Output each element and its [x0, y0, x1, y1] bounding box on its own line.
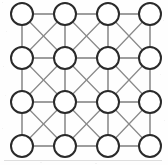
- graph-node: [97, 135, 119, 157]
- graph-node: [97, 47, 119, 69]
- graph-node: [11, 135, 33, 157]
- baseline-smudge: [4, 160, 162, 161]
- graph-node: [54, 91, 76, 113]
- grid-graph-canvas: [0, 0, 168, 165]
- graph-node: [54, 135, 76, 157]
- graph-node: [54, 3, 76, 25]
- graph-node: [139, 3, 161, 25]
- graph-node: [139, 47, 161, 69]
- graph-node: [139, 91, 161, 113]
- graph-node: [54, 47, 76, 69]
- graph-node: [97, 91, 119, 113]
- graph-node: [139, 135, 161, 157]
- graph-node: [97, 3, 119, 25]
- diagonal-edges-group: [22, 14, 150, 146]
- grid-graph-figure: [0, 0, 168, 165]
- graph-node: [11, 47, 33, 69]
- graph-node: [11, 91, 33, 113]
- graph-node: [11, 3, 33, 25]
